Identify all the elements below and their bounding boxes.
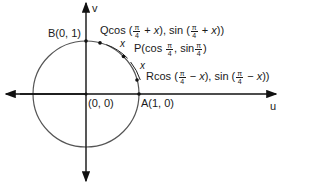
point-p — [122, 55, 126, 59]
point-a — [137, 92, 141, 96]
point-b — [84, 39, 88, 43]
label-a-coords: (1, 0) — [148, 97, 174, 109]
label-r-frac2: π4 — [236, 70, 243, 85]
label-q-frac1: π4 — [133, 24, 140, 39]
point-r — [135, 78, 139, 82]
label-origin: (0, 0) — [88, 97, 114, 109]
arc-bracket-pr — [131, 62, 141, 80]
label-b: B(0, 1) — [48, 27, 81, 39]
label-r-name: R — [146, 70, 154, 82]
label-q-name: Q — [100, 24, 109, 36]
label-q-cos: cos ( — [109, 24, 133, 36]
label-r-frac1: π4 — [179, 70, 186, 85]
point-q — [98, 41, 102, 45]
label-r-cos: cos ( — [154, 70, 178, 82]
point-origin — [85, 93, 88, 96]
u-axis-label: u — [270, 100, 276, 112]
label-b-coords: (0, 1) — [55, 27, 81, 39]
label-p: P(cos π4, sinπ4) — [134, 42, 207, 57]
label-q: Qcos (π4 + x), sin (π4 + x)) — [100, 24, 224, 39]
label-a: A(1, 0) — [141, 97, 174, 109]
label-q-frac2: π4 — [191, 24, 198, 39]
label-r: Rcos (π4 − x), sin (π4 − x)) — [146, 70, 269, 85]
arc-label-2: x — [140, 60, 145, 72]
v-axis-label: v — [92, 2, 98, 14]
label-p-frac1: π4 — [166, 42, 173, 57]
arc-label-1: x — [120, 38, 125, 50]
label-p-frac2: π4 — [195, 42, 202, 57]
label-p-name: P — [134, 42, 141, 54]
